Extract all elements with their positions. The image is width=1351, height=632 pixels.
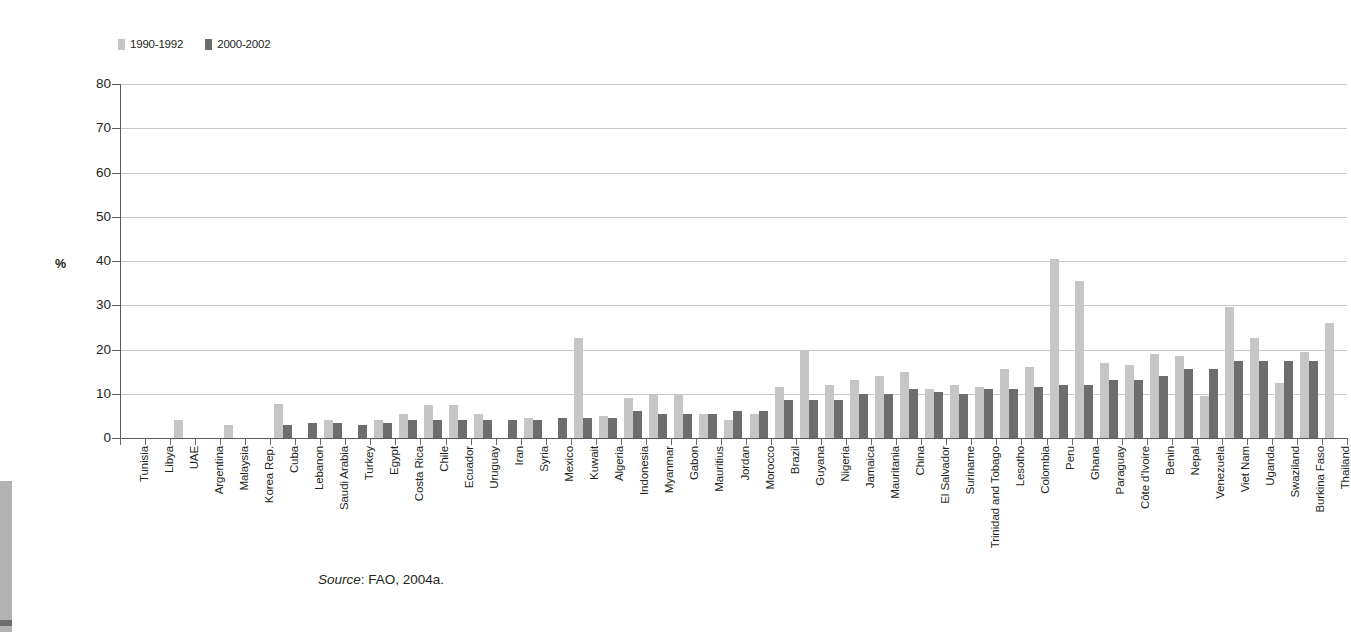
x-tick — [971, 438, 972, 445]
bar-1990-1992 — [1300, 352, 1309, 438]
y-tick-10 — [112, 394, 120, 395]
bar-2000-2002 — [333, 423, 342, 438]
source-text: : FAO, 2004a. — [361, 572, 444, 587]
x-tick-label: Uganda — [1264, 446, 1276, 486]
x-tick — [546, 438, 547, 445]
x-tick — [1297, 438, 1298, 445]
bar-1990-1992 — [674, 394, 683, 438]
x-tick-label: Trinidad and Tobago — [989, 446, 1001, 548]
x-tick — [721, 438, 722, 445]
x-tick-label: China — [914, 446, 926, 476]
x-tick-label: Egypt — [388, 446, 400, 475]
x-tick — [1172, 438, 1173, 445]
bar-1990-1992 — [850, 380, 859, 438]
bar-group — [220, 84, 245, 438]
bar-1990-1992 — [699, 414, 708, 438]
x-tick — [1147, 438, 1148, 445]
x-tick-label: Mauritania — [889, 446, 901, 499]
x-tick-label: UAE — [188, 446, 200, 469]
bar-group — [696, 84, 721, 438]
bar-1990-1992 — [574, 338, 583, 438]
y-tick-label-50: 50 — [77, 210, 111, 224]
bar-2000-2002 — [658, 414, 667, 438]
bar-1990-1992 — [274, 404, 283, 439]
bar-group — [771, 84, 796, 438]
scan-edge-artifact — [0, 481, 12, 632]
source-note: Source: FAO, 2004a. — [318, 572, 444, 587]
bar-group — [596, 84, 621, 438]
legend-swatch-icon — [118, 39, 125, 50]
x-tick — [220, 438, 221, 445]
x-tick-label: Colombia — [1039, 446, 1051, 494]
bar-group — [320, 84, 345, 438]
bar-1990-1992 — [724, 420, 733, 438]
y-tick-30 — [112, 305, 120, 306]
bar-group — [646, 84, 671, 438]
bar-group — [1021, 84, 1046, 438]
y-tick-50 — [112, 217, 120, 218]
bar-2000-2002 — [809, 400, 818, 438]
bar-group — [796, 84, 821, 438]
bar-2000-2002 — [458, 420, 467, 438]
bar-group — [1172, 84, 1197, 438]
x-tick — [120, 438, 121, 445]
bar-2000-2002 — [583, 418, 592, 438]
bar-1990-1992 — [950, 385, 959, 438]
x-tick — [846, 438, 847, 445]
bar-2000-2002 — [483, 420, 492, 438]
x-tick-label: Malaysia — [238, 446, 250, 491]
bar-2000-2002 — [1284, 361, 1293, 438]
bar-2000-2002 — [1034, 387, 1043, 438]
legend-item-1: 1990-1992 — [118, 38, 183, 50]
bar-2000-2002 — [1234, 361, 1243, 438]
scan-edge-artifact-dark — [0, 620, 12, 626]
x-tick — [1272, 438, 1273, 445]
x-tick — [471, 438, 472, 445]
bar-group — [971, 84, 996, 438]
x-tick-label: Saudi Arabia — [338, 446, 350, 510]
x-tick — [621, 438, 622, 445]
x-tick — [295, 438, 296, 445]
x-tick-label: Algeria — [613, 446, 625, 481]
bar-1990-1992 — [324, 420, 333, 438]
x-tick — [771, 438, 772, 445]
x-tick — [170, 438, 171, 445]
bar-group — [420, 84, 445, 438]
x-tick — [195, 438, 196, 445]
x-tick — [571, 438, 572, 445]
x-tick-label: Lesotho — [1014, 446, 1026, 486]
x-tick — [1047, 438, 1048, 445]
y-tick-label-20: 20 — [77, 343, 111, 357]
bar-group — [345, 84, 370, 438]
x-tick — [345, 438, 346, 445]
bar-group — [395, 84, 420, 438]
x-tick-label: Korea Rep. — [263, 446, 275, 503]
x-tick-label: Uruguay — [488, 446, 500, 489]
bar-1990-1992 — [825, 385, 834, 438]
bar-1990-1992 — [1050, 259, 1059, 438]
x-tick-label: Indonesia — [638, 446, 650, 495]
x-tick-label: Nigeria — [839, 446, 851, 482]
bar-group — [521, 84, 546, 438]
y-tick-label-0: 0 — [77, 431, 111, 445]
bar-2000-2002 — [408, 420, 417, 438]
x-tick-label: Benin — [1164, 446, 1176, 475]
x-tick — [1197, 438, 1198, 445]
y-tick-label-80: 80 — [77, 77, 111, 91]
bar-1990-1992 — [750, 414, 759, 438]
x-tick-label: Mauritius — [713, 446, 725, 492]
x-tick-label: Chile — [438, 446, 450, 472]
bar-2000-2002 — [383, 423, 392, 438]
x-tick — [521, 438, 522, 445]
bar-2000-2002 — [1109, 380, 1118, 438]
bar-2000-2002 — [784, 400, 793, 438]
bar-1990-1992 — [1200, 396, 1209, 438]
bar-2000-2002 — [308, 423, 317, 438]
bar-group — [621, 84, 646, 438]
x-tick-label: Peru — [1064, 446, 1076, 470]
y-tick-label-40: 40 — [77, 254, 111, 268]
bar-2000-2002 — [759, 411, 768, 438]
x-tick-label: Guyana — [814, 446, 826, 486]
bar-2000-2002 — [733, 411, 742, 438]
